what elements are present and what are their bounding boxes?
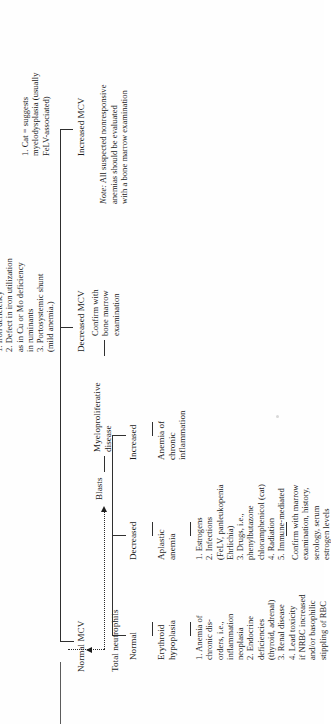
- scan-artifact: [276, 415, 279, 418]
- bracket-tick-increased-mcv: [60, 129, 73, 130]
- dotted-connector-arrowhead: [101, 506, 107, 512]
- dotted-connector-horizontal: [104, 510, 105, 650]
- note-block: Note: All suspected nonresponsive anemia…: [88, 20, 130, 204]
- connector-normal-node-to-list: [190, 622, 191, 636]
- connector-decreased-list-to-footer: [286, 522, 287, 536]
- neutrophil-spine-drop-increased: [112, 435, 126, 436]
- scan-artifact: [300, 618, 302, 620]
- column-heading-decreased: Decreased: [128, 482, 139, 560]
- connector-blasts-node-to-footer: [104, 340, 105, 356]
- list-decreased-mcv-causes: 1. Iron deficiency 2. Defect in iron uti…: [0, 176, 56, 352]
- connector-blasts-to-node: [104, 456, 105, 472]
- connector-decreased-node-to-list: [190, 522, 191, 536]
- footer-decreased-confirm: Confirm with marrow examination, history…: [290, 410, 331, 560]
- branch-label-normal-mcv: Normal MCV: [76, 592, 87, 672]
- node-myeloproliferative-disease: Myeloproliferative disease: [92, 342, 113, 452]
- list-increased-mcv-causes: 1. Cat = suggests myelodysplasia (usuall…: [20, 0, 51, 156]
- node-erythroid-hypoplasia: Erythroid hypoplasia: [156, 572, 177, 660]
- page-trim-line: [60, 662, 61, 724]
- connector-increased-to-node: [152, 422, 153, 436]
- connector-normal-to-node: [152, 622, 153, 636]
- column-heading-increased: Increased: [128, 384, 139, 460]
- node-aplastic-anemia: Aplastic anemia: [156, 476, 177, 560]
- note-prefix: Note:: [98, 185, 108, 204]
- node-anemia-chronic-inflammation: Anemia of chronic inflammation: [156, 364, 188, 460]
- bracket-tick-normal-mcv: [60, 641, 74, 642]
- column-heading-normal: Normal: [128, 590, 139, 660]
- branch-label-increased-mcv: Increased MCV: [76, 56, 87, 156]
- branch-label-decreased-mcv: Decreased MCV: [76, 256, 87, 352]
- neutrophil-spine-drop-decreased: [112, 535, 126, 536]
- neutrophil-branch-spine: [112, 436, 113, 636]
- neutrophil-spine-drop-normal: [112, 635, 126, 636]
- bracket-tick-decreased-mcv: [60, 327, 73, 328]
- dotted-connector-arrowhead-up: [86, 648, 92, 654]
- connector-decreased-to-node: [152, 522, 153, 536]
- footer-blasts-confirm: Confirm with bone marrow examination: [90, 236, 121, 336]
- top-bracket-rule: [60, 130, 61, 642]
- list-aplastic-anemia-causes: 1. Estrogens 2. Infections (FeLV, panleu…: [194, 414, 287, 560]
